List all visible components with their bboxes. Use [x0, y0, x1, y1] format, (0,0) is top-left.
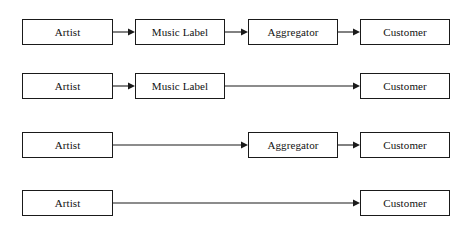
flow-arrow	[113, 19, 135, 45]
node-label: Music Label	[152, 81, 208, 92]
node-box-customer: Customer	[360, 19, 450, 45]
node-box-music_label: Music Label	[135, 73, 225, 99]
node-label: Music Label	[152, 27, 208, 38]
node-label: Customer	[383, 140, 427, 151]
node-box-customer: Customer	[360, 190, 450, 216]
node-label: Aggregator	[267, 140, 318, 151]
node-label: Aggregator	[267, 27, 318, 38]
flow-arrow	[113, 190, 360, 216]
flow-arrow	[338, 132, 360, 158]
node-label: Artist	[55, 27, 81, 38]
node-label: Customer	[383, 198, 427, 209]
node-label: Customer	[383, 81, 427, 92]
node-label: Artist	[55, 198, 81, 209]
node-box-aggregator: Aggregator	[248, 132, 338, 158]
node-label: Artist	[55, 140, 81, 151]
node-box-aggregator: Aggregator	[248, 19, 338, 45]
node-box-music_label: Music Label	[135, 19, 225, 45]
node-box-customer: Customer	[360, 132, 450, 158]
node-box-artist: Artist	[22, 73, 113, 99]
flow-arrow	[113, 73, 135, 99]
flow-arrow	[225, 73, 360, 99]
flow-arrow	[113, 132, 248, 158]
node-label: Artist	[55, 81, 81, 92]
node-label: Customer	[383, 27, 427, 38]
node-box-artist: Artist	[22, 190, 113, 216]
flow-arrow	[338, 19, 360, 45]
node-box-customer: Customer	[360, 73, 450, 99]
node-box-artist: Artist	[22, 19, 113, 45]
node-box-artist: Artist	[22, 132, 113, 158]
flow-diagram: ArtistMusic LabelAggregatorCustomerArtis…	[0, 0, 471, 231]
flow-arrow	[225, 19, 248, 45]
